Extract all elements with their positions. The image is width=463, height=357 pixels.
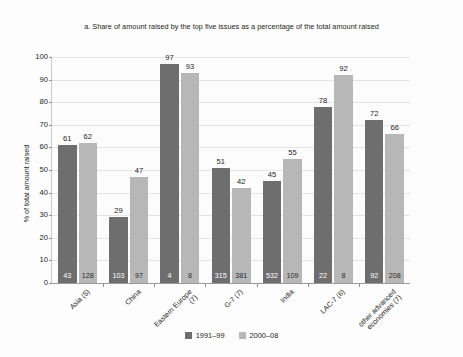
- legend-label: 1991–99: [196, 331, 225, 340]
- bar-count-label: 8: [175, 272, 206, 280]
- x-tick-mark: [257, 283, 258, 287]
- bar-count-label: 8: [328, 272, 359, 280]
- bar[interactable]: [314, 107, 333, 283]
- x-category-label[interactable]: other advancedeconomies (7): [308, 288, 405, 357]
- gridline: [52, 238, 410, 239]
- y-tick-label: 80: [18, 98, 48, 106]
- bar-count-label: 381: [226, 272, 257, 280]
- plot-area: 6143621282910347979749385131542381455325…: [52, 57, 410, 283]
- y-tick-mark: [49, 57, 52, 58]
- bar-count-label: 128: [73, 272, 104, 280]
- bar[interactable]: [160, 64, 179, 283]
- bar[interactable]: [263, 181, 282, 283]
- chart-legend: 1991–992000–08: [0, 331, 463, 340]
- chart-title: a. Share of amount raised by the top fiv…: [0, 22, 463, 31]
- y-tick-mark: [49, 80, 52, 81]
- bar-value-label: 92: [328, 65, 359, 73]
- y-tick-mark: [49, 193, 52, 194]
- chart-figure: a. Share of amount raised by the top fiv…: [0, 0, 463, 357]
- bar[interactable]: [232, 188, 251, 283]
- x-tick-mark: [359, 283, 360, 287]
- bar-count-label: 208: [379, 272, 410, 280]
- gridline: [52, 170, 410, 171]
- legend-label: 2000–08: [250, 331, 279, 340]
- legend-swatch-icon: [185, 332, 192, 339]
- y-tick-mark: [49, 170, 52, 171]
- y-axis-tick-labels: 0102030405060708090100: [14, 57, 48, 283]
- bar-value-label: 42: [226, 178, 257, 186]
- bar[interactable]: [79, 143, 98, 283]
- y-tick-label: 100: [18, 53, 48, 61]
- bar-value-label: 62: [73, 133, 104, 141]
- bar[interactable]: [365, 120, 384, 283]
- y-tick-mark: [49, 260, 52, 261]
- y-tick-label: 90: [18, 76, 48, 84]
- bar-value-label: 55: [277, 149, 308, 157]
- x-axis-line: [52, 283, 410, 284]
- x-tick-mark: [308, 283, 309, 287]
- y-tick-mark: [49, 215, 52, 216]
- bar[interactable]: [283, 159, 302, 283]
- bar-count-label: 109: [277, 272, 308, 280]
- gridline: [52, 125, 410, 126]
- bar-value-label: 47: [124, 167, 155, 175]
- gridline: [52, 102, 410, 103]
- bar-value-label: 66: [379, 124, 410, 132]
- bar[interactable]: [181, 73, 200, 283]
- gridline: [52, 80, 410, 81]
- bar-value-label: 97: [154, 54, 185, 62]
- y-axis-label-wrapper: % of total amount raised: [0, 57, 14, 283]
- y-tick-mark: [49, 125, 52, 126]
- gridline: [52, 57, 410, 58]
- gridline: [52, 193, 410, 194]
- y-axis-label: % of total amount raised: [22, 124, 31, 244]
- x-tick-mark: [154, 283, 155, 287]
- y-tick-mark: [49, 283, 52, 284]
- y-tick-label: 10: [18, 256, 48, 264]
- gridline: [52, 147, 410, 148]
- bar[interactable]: [334, 75, 353, 283]
- gridline: [52, 260, 410, 261]
- legend-item[interactable]: 1991–99: [185, 331, 225, 340]
- x-tick-mark: [205, 283, 206, 287]
- bar[interactable]: [130, 177, 149, 283]
- bar-value-label: 93: [175, 63, 206, 71]
- bar-value-label: 51: [206, 158, 237, 166]
- y-tick-mark: [49, 238, 52, 239]
- bar[interactable]: [58, 145, 77, 283]
- y-tick-mark: [49, 147, 52, 148]
- bar-value-label: 72: [359, 110, 390, 118]
- legend-item[interactable]: 2000–08: [239, 331, 279, 340]
- bar[interactable]: [385, 134, 404, 283]
- x-tick-mark: [103, 283, 104, 287]
- legend-swatch-icon: [239, 332, 246, 339]
- bar-count-label: 97: [124, 272, 155, 280]
- y-tick-mark: [49, 102, 52, 103]
- y-tick-label: 0: [18, 279, 48, 287]
